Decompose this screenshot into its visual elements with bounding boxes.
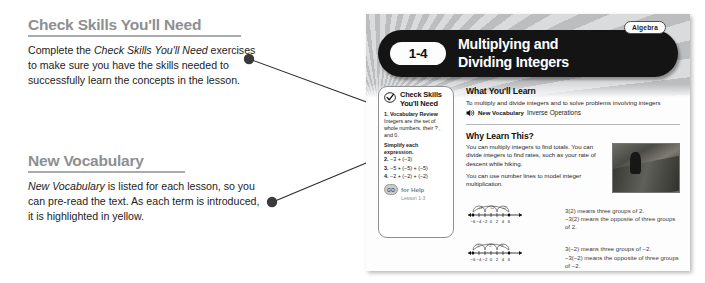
tick-label: 4 bbox=[502, 257, 505, 262]
hiking-photo bbox=[612, 143, 680, 193]
new-vocabulary-term: Inverse Operations bbox=[527, 109, 581, 116]
number-line-block-1: +2 +2 +2 bbox=[466, 198, 680, 231]
item-number: 1. bbox=[384, 111, 388, 117]
annotation-text-run: Complete the bbox=[28, 44, 94, 56]
annotation-heading-new-vocabulary: New Vocabulary bbox=[28, 152, 266, 169]
caption-line-1: 3(2) means three groups of 2. bbox=[565, 207, 680, 215]
section-divider bbox=[466, 124, 680, 125]
annotation-heading-check-skills: Check Skills You'll Need bbox=[28, 16, 266, 33]
subject-badge: Algebra bbox=[624, 21, 666, 34]
number-line-block-2: −2 −2 −2 bbox=[466, 236, 680, 269]
leader-line-check-skills bbox=[252, 60, 372, 104]
new-vocabulary-label: New Vocabulary bbox=[478, 110, 524, 116]
check-skills-box: Check Skills You'll Need 1. Vocabulary R… bbox=[378, 86, 454, 238]
why-learn-this-row: You can multiply integers to find totals… bbox=[466, 143, 680, 193]
number-line-svg-1: +2 +2 +2 bbox=[466, 198, 558, 224]
exercise-row: 2. −3 + (−3) bbox=[379, 155, 453, 163]
exercise-row: 3. −5 + (−5) + (−5) bbox=[379, 164, 453, 172]
lesson-title: Multiplying and Dividing Integers bbox=[458, 35, 569, 71]
why-learn-paragraph-2: You can use number lines to model intege… bbox=[466, 172, 606, 188]
tick-label: 6 bbox=[508, 257, 511, 262]
check-skills-title: Check Skills You'll Need bbox=[400, 91, 442, 108]
lesson-content: What You'll Learn To multiply and divide… bbox=[466, 86, 680, 270]
go-for-help-label: for Help bbox=[401, 186, 424, 193]
check-skills-item-1: 1. Vocabulary Review Integers are the se… bbox=[379, 111, 453, 139]
tick-label: −6 bbox=[471, 219, 476, 224]
tick-label: 6 bbox=[508, 219, 511, 224]
leader-dot-new-vocabulary bbox=[267, 197, 277, 207]
textbook-page: 1-4 Multiplying and Dividing Integers Al… bbox=[366, 14, 690, 271]
vocabulary-review-label: Vocabulary Review bbox=[390, 111, 438, 117]
tick-label: 0 bbox=[490, 219, 493, 224]
item-text: Integers are the set of whole numbers, t… bbox=[384, 118, 441, 138]
number-line-figure-2: −2 −2 −2 bbox=[466, 236, 558, 266]
what-youll-learn-heading: What You'll Learn bbox=[466, 86, 680, 96]
number-line-caption-2: 3(−2) means three groups of −2. −3(−2) m… bbox=[565, 236, 680, 269]
caption-line-2: −3(2) means the opposite of three groups… bbox=[565, 215, 680, 231]
tick-label: −2 bbox=[483, 257, 488, 262]
jump-label: −2 bbox=[499, 243, 504, 248]
lesson-title-line-2: Dividing Integers bbox=[458, 53, 569, 71]
go-for-help-lesson-ref: Lesson 1-3 bbox=[379, 196, 453, 201]
annotation-body-new-vocabulary: New Vocabulary is listed for each lesson… bbox=[28, 179, 266, 224]
tick-label: 2 bbox=[496, 219, 499, 224]
check-skills-title-line-2: You'll Need bbox=[400, 100, 442, 109]
lesson-header-bar: 1-4 Multiplying and Dividing Integers Al… bbox=[378, 30, 678, 77]
tick-label: −6 bbox=[471, 257, 476, 262]
annotation-text-run-italic: New Vocabulary bbox=[28, 180, 105, 192]
simplify-instruction: Simplify each expression. bbox=[379, 142, 453, 156]
why-learn-paragraph-1: You can multiply integers to find totals… bbox=[466, 143, 606, 168]
why-learn-this-text: You can multiply integers to find totals… bbox=[466, 143, 606, 193]
caption-line-2: −3(−2) means the opposite of three group… bbox=[565, 254, 680, 270]
jump-label: +2 bbox=[478, 205, 483, 210]
exercise-row: 4. −2 + (−2) + (−2) bbox=[379, 172, 453, 180]
go-for-help-link[interactable]: GO for Help bbox=[379, 180, 453, 195]
go-icon: GO bbox=[384, 184, 398, 195]
tick-label: −4 bbox=[477, 257, 482, 262]
annotation-text-run-italic: Check Skills You'll Need bbox=[94, 44, 208, 56]
exercise-number: 3. bbox=[384, 165, 389, 171]
lesson-number-badge: 1-4 bbox=[390, 42, 446, 65]
annotation-check-skills: Check Skills You'll Need Complete the Ch… bbox=[28, 16, 266, 88]
exercise-expression: −3 + (−3) bbox=[390, 156, 412, 162]
tick-label: 2 bbox=[496, 257, 499, 262]
annotation-underline-new-vocabulary bbox=[28, 171, 185, 173]
figure-root: Check Skills You'll Need Complete the Ch… bbox=[0, 0, 705, 283]
new-vocabulary-row: New Vocabulary Inverse Operations bbox=[466, 109, 680, 117]
number-line-figure-1: +2 +2 +2 bbox=[466, 198, 558, 228]
speaker-icon[interactable] bbox=[466, 109, 475, 117]
exercise-expression: −2 + (−2) + (−2) bbox=[390, 173, 428, 179]
jump-label: −2 bbox=[487, 243, 492, 248]
tick-label: −4 bbox=[477, 219, 482, 224]
number-line-caption-1: 3(2) means three groups of 2. −3(2) mean… bbox=[565, 198, 680, 231]
exercise-number: 4. bbox=[384, 173, 389, 179]
jump-label: −2 bbox=[475, 243, 480, 248]
caption-line-1: 3(−2) means three groups of −2. bbox=[565, 245, 680, 253]
jump-label: +2 bbox=[490, 205, 495, 210]
number-line-svg-2: −2 −2 −2 bbox=[466, 236, 558, 262]
checkmark-icon bbox=[384, 92, 397, 103]
tick-label: 4 bbox=[502, 219, 505, 224]
exercise-number: 2. bbox=[384, 156, 389, 162]
check-skills-header: Check Skills You'll Need bbox=[379, 87, 453, 108]
why-learn-this-heading: Why Learn This? bbox=[466, 131, 680, 141]
jump-label: +2 bbox=[502, 205, 507, 210]
what-youll-learn-body: To multiply and divide integers and to s… bbox=[466, 99, 680, 107]
exercise-expression: −5 + (−5) + (−5) bbox=[390, 165, 428, 171]
tick-label: 0 bbox=[490, 257, 493, 262]
annotation-body-check-skills: Complete the Check Skills You'll Need ex… bbox=[28, 43, 266, 88]
tick-label: −2 bbox=[483, 219, 488, 224]
annotation-underline-check-skills bbox=[28, 35, 241, 37]
lesson-title-line-1: Multiplying and bbox=[458, 35, 569, 53]
annotation-new-vocabulary: New Vocabulary New Vocabulary is listed … bbox=[28, 152, 266, 224]
